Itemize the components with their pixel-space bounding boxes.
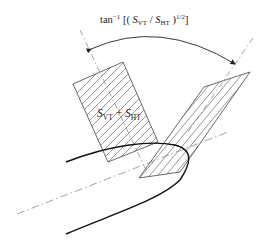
angle-arc (91, 37, 235, 64)
angle-formula-label: tan−1 [( SVT / SHT )1/2] (100, 14, 188, 27)
diagram-canvas (0, 0, 269, 252)
tip-curve (66, 143, 189, 234)
centerline (17, 132, 228, 214)
stiffness-sum-label: SVT + SHT (97, 108, 141, 122)
hatched-rectangle (40, 30, 232, 180)
